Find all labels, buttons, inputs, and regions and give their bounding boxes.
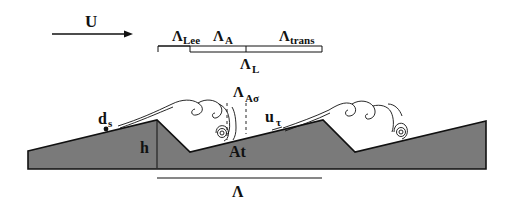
svg-text:L: L: [252, 63, 259, 75]
scale-label-l: Λ L: [240, 56, 259, 75]
svg-text:Λ: Λ: [213, 28, 224, 44]
grain-diameter-label: d s: [98, 110, 113, 129]
svg-text:τ: τ: [276, 116, 281, 128]
svg-text:Λ: Λ: [279, 28, 290, 44]
svg-text:Lee: Lee: [183, 34, 200, 46]
svg-text:A: A: [225, 34, 233, 46]
svg-text:u: u: [265, 108, 274, 125]
dune-bed: [28, 120, 486, 169]
svg-text:Λ: Λ: [233, 84, 244, 100]
svg-text:Aσ: Aσ: [245, 92, 259, 104]
svg-text:s: s: [108, 117, 113, 129]
shear-velocity-label: u τ: [265, 108, 282, 130]
svg-text:Λ: Λ: [172, 28, 183, 44]
at-label: At: [229, 143, 247, 160]
wavelength-label: Λ: [232, 183, 244, 200]
dune-diagram: U Λ Lee Λ A Λ trans Λ L Λ Aσ: [0, 0, 507, 207]
scale-label-a-sigma: Λ Aσ: [233, 84, 259, 104]
height-label: h: [140, 139, 149, 156]
scale-label-trans: Λ trans: [279, 28, 315, 46]
flow-velocity-label: U: [85, 12, 97, 31]
flow-arrow-icon: [52, 31, 133, 38]
svg-text:trans: trans: [290, 34, 315, 46]
scale-label-lee: Λ Lee: [172, 28, 200, 46]
svg-text:Λ: Λ: [240, 56, 251, 72]
scale-bracket: [158, 46, 322, 52]
svg-text:d: d: [98, 110, 107, 127]
scale-label-a: Λ A: [213, 28, 233, 46]
